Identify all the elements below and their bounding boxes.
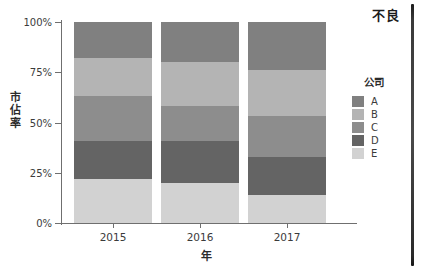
x-axis-title: 年 xyxy=(0,247,412,263)
bar-segment[interactable] xyxy=(248,70,326,116)
legend-swatch xyxy=(352,148,364,159)
y-axis-title: 市佔率 xyxy=(8,92,23,131)
x-axis-tick xyxy=(287,223,288,228)
legend-item-label: E xyxy=(371,149,377,159)
bar-column[interactable] xyxy=(161,22,239,223)
legend: 公司 ABCDE xyxy=(352,74,406,160)
legend-swatch xyxy=(352,122,364,133)
legend-item-label: C xyxy=(371,123,378,133)
y-axis-tick-label: 0% xyxy=(36,218,52,229)
bar-segment[interactable] xyxy=(161,22,239,62)
bar-segment[interactable] xyxy=(248,195,326,223)
legend-item-label: B xyxy=(371,110,378,120)
x-axis-tick-label: 2015 xyxy=(100,231,127,243)
bar-segment[interactable] xyxy=(161,106,239,140)
legend-item-label: A xyxy=(371,97,378,107)
bar-segment[interactable] xyxy=(74,58,152,96)
stacked-bar-chart-figure: 不良 0%25%50%75%100% 201520162017 市佔率 年 公司… xyxy=(0,0,426,270)
x-axis-tick-label: 2017 xyxy=(274,231,301,243)
legend-swatch xyxy=(352,109,364,120)
bar-segment[interactable] xyxy=(74,96,152,140)
legend-item[interactable]: C xyxy=(352,121,406,134)
legend-swatch xyxy=(352,135,364,146)
y-axis-tick-label: 100% xyxy=(23,17,52,28)
legend-item[interactable]: A xyxy=(352,95,406,108)
legend-item[interactable]: B xyxy=(352,108,406,121)
y-axis-tick-label: 50% xyxy=(30,117,52,128)
x-axis-line xyxy=(61,223,357,224)
legend-item[interactable]: E xyxy=(352,147,406,160)
bar-segment[interactable] xyxy=(74,141,152,179)
x-axis-tick xyxy=(113,223,114,228)
bar-segment[interactable] xyxy=(74,22,152,58)
bar-segment[interactable] xyxy=(161,183,239,223)
plot-area xyxy=(61,22,351,223)
bar-segment[interactable] xyxy=(248,157,326,195)
x-axis-tick-label: 2016 xyxy=(187,231,214,243)
legend-title: 公司 xyxy=(364,74,406,89)
bar-segment[interactable] xyxy=(161,141,239,183)
legend-item[interactable]: D xyxy=(352,134,406,147)
legend-item-label: D xyxy=(371,136,379,146)
y-axis-tick-label: 75% xyxy=(30,67,52,78)
right-side-rail[interactable] xyxy=(411,4,414,266)
bar-segment[interactable] xyxy=(74,179,152,223)
bar-segment[interactable] xyxy=(248,116,326,156)
y-axis-tick-label: 25% xyxy=(30,167,52,178)
legend-swatch xyxy=(352,96,364,107)
bar-segment[interactable] xyxy=(161,62,239,106)
bar-segment[interactable] xyxy=(248,22,326,70)
bar-column[interactable] xyxy=(74,22,152,223)
x-axis-tick xyxy=(200,223,201,228)
bar-column[interactable] xyxy=(248,22,326,223)
corner-annotation-label: 不良 xyxy=(372,5,400,24)
legend-items: ABCDE xyxy=(352,95,406,160)
y-axis-tick xyxy=(55,223,61,224)
